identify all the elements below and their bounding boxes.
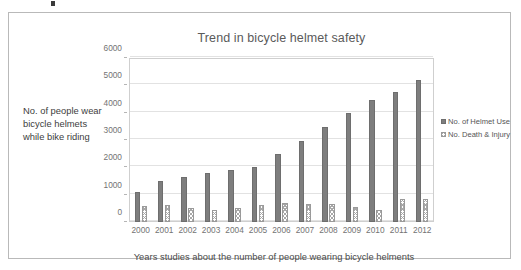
bar-helmet-use[interactable] [135,192,140,222]
bar-death-and-injury[interactable] [400,199,405,222]
bars-layer [129,58,434,222]
legend-item-label: No. Death & Injury [448,130,510,139]
y-axis-tick-mark [124,221,127,222]
chart-title: Trend in bicycle helmet safety [129,31,434,45]
hatched-square-marker-icon [441,132,446,137]
x-axis-tick-label: 2001 [152,225,175,235]
x-axis-tick-label: 2005 [246,225,269,235]
bar-helmet-use[interactable] [181,177,186,222]
y-axis-tick-label: 4000 [104,98,122,108]
y-axis-tick-mark [124,112,127,113]
bar-death-and-injury[interactable] [188,208,193,222]
x-axis-tick-labels: 2000200120022003200420052006200720082009… [129,225,434,239]
bar-helmet-use[interactable] [322,127,327,222]
y-axis-tick-mark [124,194,127,195]
bar-group [411,58,434,222]
bar-death-and-injury[interactable] [259,205,264,222]
x-axis-title: Years studies about the number of people… [69,251,479,262]
bar-death-and-injury[interactable] [353,207,358,222]
y-axis-tick-mark [124,139,127,140]
bar-helmet-use[interactable] [158,181,163,222]
y-axis-tick-label: 3000 [104,125,122,135]
bar-helmet-use[interactable] [299,141,304,222]
x-axis-tick-label: 2011 [387,225,410,235]
x-axis-tick-label: 2000 [129,225,152,235]
bar-death-and-injury[interactable] [142,206,147,222]
bar-helmet-use[interactable] [369,100,374,222]
y-axis-tick-label: 6000 [104,43,122,53]
bar-group [364,58,387,222]
x-axis-tick-label: 2004 [223,225,246,235]
solid-square-marker-icon [441,119,446,124]
bar-group [340,58,363,222]
bar-death-and-injury[interactable] [306,204,311,222]
y-axis-tick-label: 1000 [104,180,122,190]
top-edge-artifact [51,1,55,6]
bar-death-and-injury[interactable] [165,205,170,222]
bar-death-and-injury[interactable] [282,203,287,222]
bar-helmet-use[interactable] [205,173,210,222]
bar-group [223,58,246,222]
gridline [130,56,433,57]
bar-death-and-injury[interactable] [423,199,428,222]
bar-group [199,58,222,222]
bar-helmet-use[interactable] [275,154,280,222]
x-axis-tick-label: 2012 [411,225,434,235]
bar-group [246,58,269,222]
x-axis-tick-label: 2007 [293,225,316,235]
bar-group [270,58,293,222]
bar-helmet-use[interactable] [228,170,233,222]
x-axis-tick-label: 2010 [364,225,387,235]
x-axis-tick-label: 2006 [270,225,293,235]
y-axis-tick-label: 0 [117,207,122,217]
x-axis-tick-label: 2002 [176,225,199,235]
bar-group [129,58,152,222]
bar-group [293,58,316,222]
chart-legend: No. of Helmet UseNo. Death & Injury [441,117,521,143]
x-axis-tick-label: 2003 [199,225,222,235]
y-axis-tick-labels: 0100020003000400050006000 [95,58,127,222]
legend-item[interactable]: No. of Helmet Use [441,117,521,126]
bar-death-and-injury[interactable] [376,210,381,222]
bar-helmet-use[interactable] [252,167,257,222]
legend-item[interactable]: No. Death & Injury [441,130,521,139]
x-axis-tick-label: 2008 [317,225,340,235]
bar-helmet-use[interactable] [393,92,398,222]
chart-figure-frame: Trend in bicycle helmet safety No. of pe… [8,12,511,259]
x-axis-tick-label: 2009 [340,225,363,235]
bar-group [387,58,410,222]
bar-group [176,58,199,222]
bar-death-and-injury[interactable] [235,208,240,222]
bar-helmet-use[interactable] [346,113,351,222]
bar-group [152,58,175,222]
legend-item-label: No. of Helmet Use [448,117,510,126]
bar-death-and-injury[interactable] [212,210,217,222]
y-axis-tick-mark [124,84,127,85]
bar-helmet-use[interactable] [416,80,421,222]
bar-death-and-injury[interactable] [329,204,334,222]
y-axis-tick-label: 2000 [104,152,122,162]
y-axis-tick-mark [124,57,127,58]
y-axis-tick-mark [124,166,127,167]
bar-group [317,58,340,222]
y-axis-tick-label: 5000 [104,70,122,80]
